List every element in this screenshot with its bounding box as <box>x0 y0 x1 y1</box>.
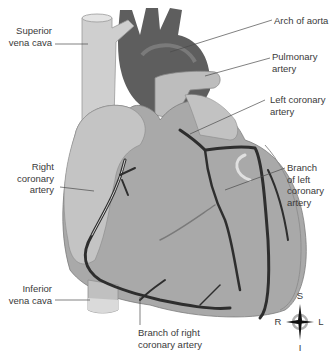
label-line: Arch of aorta <box>274 15 328 27</box>
label-pulmonary-artery: Pulmonary artery <box>272 51 317 74</box>
label-line: of left <box>287 174 324 186</box>
compass-left: L <box>316 316 326 328</box>
label-line: artery <box>2 184 54 196</box>
label-branch-of-left-coronary-artery: Branch of left coronary artery <box>287 162 324 208</box>
label-line: artery <box>272 63 317 75</box>
label-line: vena cava <box>2 295 52 307</box>
label-line: Pulmonary <box>272 51 317 63</box>
label-arch-of-aorta: Arch of aorta <box>274 15 328 27</box>
label-line: Superior <box>2 25 52 37</box>
label-left-coronary-artery: Left coronary artery <box>270 94 325 117</box>
label-line: coronary <box>287 185 324 197</box>
label-superior-vena-cava: Superior vena cava <box>2 25 52 48</box>
compass-right: R <box>273 316 283 328</box>
label-line: Branch of right <box>138 327 202 339</box>
label-line: Inferior <box>2 283 52 295</box>
label-line: artery <box>270 106 325 118</box>
label-branch-of-right-coronary-artery: Branch of right coronary artery <box>138 327 202 350</box>
compass-superior: S <box>295 290 305 302</box>
label-line: vena cava <box>2 37 52 49</box>
label-line: Right <box>2 161 54 173</box>
orientation-compass <box>286 304 314 340</box>
label-line: artery <box>287 197 324 209</box>
compass-inferior: I <box>295 342 305 354</box>
label-inferior-vena-cava: Inferior vena cava <box>2 283 52 306</box>
label-line: coronary artery <box>138 339 202 351</box>
label-right-coronary-artery: Right coronary artery <box>2 161 54 196</box>
label-line: Branch <box>287 162 324 174</box>
label-line: coronary <box>2 173 54 185</box>
label-line: Left coronary <box>270 94 325 106</box>
